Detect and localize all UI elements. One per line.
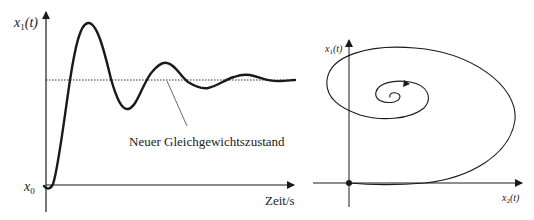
y-axis-label: x1(t) [13,15,38,32]
time-response-plot: x1(t) x0 Zeit/s Neuer Gleichgewichtszust… [13,12,295,212]
annotation-leader-line [167,81,187,126]
phase-x-axis-label: x2(t) [501,192,520,205]
phase-trajectory [327,47,515,184]
x-axis-label: Zeit/s [265,193,295,208]
x0-label: x0 [23,179,35,196]
diagram-canvas: x1(t) x0 Zeit/s Neuer Gleichgewichtszust… [0,0,534,220]
start-point [346,180,352,186]
phase-y-axis-label: x1(t) [324,43,343,56]
phase-portrait-plot: x1(t) x2(t) [313,40,522,207]
equilibrium-annotation: Neuer Gleichgewichtszustand [129,134,285,149]
response-curve [44,23,295,188]
